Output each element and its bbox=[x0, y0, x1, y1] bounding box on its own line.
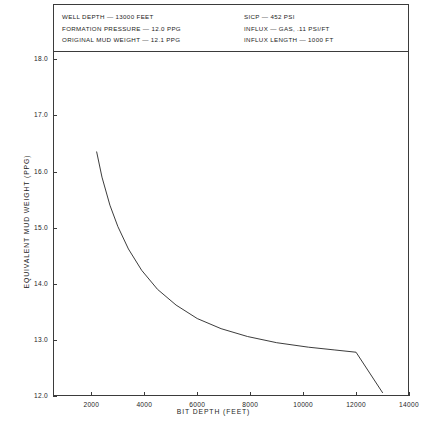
x-tick-mark bbox=[356, 392, 357, 396]
annotation-influx-gas: INFLUX — GAS, .11 PSI/FT bbox=[244, 23, 334, 35]
x-axis-title: BIT DEPTH (FEET) bbox=[0, 408, 427, 415]
y-tick-mark bbox=[53, 396, 57, 397]
y-tick-mark bbox=[53, 59, 57, 60]
y-tick-label: 18.0 bbox=[22, 55, 48, 62]
x-tick-mark bbox=[144, 392, 145, 396]
x-tick-mark bbox=[409, 392, 410, 396]
x-tick-label: 14000 bbox=[389, 401, 427, 408]
data-series-line bbox=[97, 152, 383, 393]
y-tick-label: 12.0 bbox=[22, 392, 48, 399]
x-tick-mark bbox=[197, 392, 198, 396]
chart-figure: WELL DEPTH — 13000 FEET FORMATION PRESSU… bbox=[0, 0, 427, 426]
x-tick-label: 8000 bbox=[230, 401, 270, 408]
x-tick-label: 12000 bbox=[336, 401, 376, 408]
x-tick-mark bbox=[303, 392, 304, 396]
annotation-column-right: SICP — 452 PSI INFLUX — GAS, .11 PSI/FT … bbox=[244, 11, 334, 46]
annotation-influx-length: INFLUX LENGTH — 1000 FT bbox=[244, 34, 334, 46]
y-tick-label: 13.0 bbox=[22, 336, 48, 343]
annotation-well-depth: WELL DEPTH — 13000 FEET bbox=[62, 11, 181, 23]
annotation-box: WELL DEPTH — 13000 FEET FORMATION PRESSU… bbox=[53, 4, 409, 52]
x-tick-label: 6000 bbox=[177, 401, 217, 408]
plot-canvas bbox=[53, 52, 409, 396]
x-tick-label: 2000 bbox=[71, 401, 111, 408]
y-tick-mark bbox=[53, 284, 57, 285]
x-tick-label: 10000 bbox=[283, 401, 323, 408]
y-tick-label: 17.0 bbox=[22, 111, 48, 118]
annotation-column-left: WELL DEPTH — 13000 FEET FORMATION PRESSU… bbox=[62, 11, 181, 46]
annotation-sicp: SICP — 452 PSI bbox=[244, 11, 334, 23]
annotation-formation-pressure: FORMATION PRESSURE — 12.0 PPG bbox=[62, 23, 181, 35]
x-tick-label: 4000 bbox=[124, 401, 164, 408]
y-tick-mark bbox=[53, 172, 57, 173]
y-tick-mark bbox=[53, 340, 57, 341]
y-tick-mark bbox=[53, 115, 57, 116]
y-axis-title: EQUIVALENT MUD WEIGHT (PPG) bbox=[23, 122, 30, 322]
x-tick-mark bbox=[91, 392, 92, 396]
y-tick-mark bbox=[53, 228, 57, 229]
x-tick-mark bbox=[250, 392, 251, 396]
annotation-original-mud-weight: ORIGINAL MUD WEIGHT — 12.1 PPG bbox=[62, 34, 181, 46]
